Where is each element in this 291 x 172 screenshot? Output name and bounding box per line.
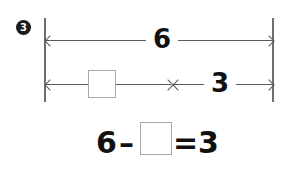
known-part-label: 3 — [204, 70, 236, 96]
known-part-arrow-left-head — [172, 79, 183, 90]
unknown-part-arrow-left-head — [44, 79, 55, 90]
blank-answer-box-diagram[interactable] — [88, 70, 116, 98]
equation-row: 6 – = 3 — [0, 112, 291, 172]
equation-minuend: 6 — [96, 128, 117, 158]
equation-result: 3 — [198, 128, 219, 158]
equation-equals-sign: = — [173, 128, 198, 158]
total-label: 6 — [146, 26, 178, 52]
total-arrow-left-head — [44, 35, 55, 46]
blank-answer-box-equation[interactable] — [140, 122, 172, 155]
right-boundary-bar — [272, 18, 274, 102]
worksheet-problem: 3 6 3 6 – = 3 — [0, 0, 291, 172]
bar-model-diagram: 6 3 — [0, 0, 291, 110]
left-boundary-bar — [44, 18, 46, 102]
equation-minus-sign: – — [119, 128, 134, 158]
